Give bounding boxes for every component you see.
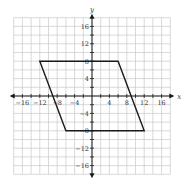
y-tick-label: −16 [75, 162, 89, 170]
y-tick-label: −12 [75, 145, 89, 153]
y-tick-label: −4 [79, 110, 89, 118]
x-tick-label: 8 [125, 99, 129, 107]
x-axis-arrow-right-icon [169, 94, 174, 99]
x-tick-label: −12 [33, 99, 47, 107]
coordinate-plane: −16−12−8−4481216161284−4−8−12−16 x y [0, 0, 187, 185]
x-tick-label: 12 [140, 99, 148, 107]
x-tick-label: −16 [16, 99, 30, 107]
y-tick-label: 16 [81, 23, 89, 31]
y-axis-arrow-down-icon [90, 173, 95, 178]
x-tick-label: 4 [107, 99, 111, 107]
x-tick-label: 16 [157, 99, 165, 107]
x-axis-arrow-left-icon [10, 94, 15, 99]
axes [10, 14, 175, 179]
y-tick-label: 12 [81, 40, 89, 48]
y-axis-arrow-up-icon [90, 14, 95, 19]
y-tick-label: 4 [85, 75, 89, 83]
y-axis-label: y [89, 6, 95, 14]
x-tick-label: −4 [70, 99, 80, 107]
x-axis-label: x [177, 93, 181, 101]
